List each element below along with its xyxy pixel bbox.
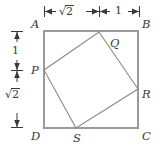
figure-canvas	[0, 0, 164, 149]
vertex-label-a: A	[31, 19, 39, 31]
arrow-top-mid-left	[92, 9, 99, 15]
arrow-top-mid-right	[100, 9, 107, 15]
vertex-label-q: Q	[110, 38, 119, 50]
vertex-label-r: R	[142, 89, 151, 101]
arrow-top-right-left	[132, 9, 139, 15]
arrow-top-left-right	[45, 9, 52, 15]
radical-sign-top: √2	[59, 5, 74, 17]
vertex-label-d: D	[31, 131, 40, 143]
dimension-label-top-one: 1	[115, 5, 122, 16]
vertex-label-p: P	[31, 65, 39, 77]
dimension-label-top-sqrt2-value: 2	[65, 5, 74, 17]
dimension-label-left-sqrt2: √2	[5, 88, 20, 100]
arrow-left-mid-down	[14, 71, 20, 78]
inner-square-pqrs	[44, 32, 138, 128]
outer-square-abcd	[44, 31, 138, 128]
vertex-label-s: S	[73, 133, 81, 145]
arrow-left-bottom-up	[14, 120, 20, 127]
radical-sign-left: √2	[5, 88, 20, 100]
vertex-label-c: C	[142, 131, 151, 143]
arrow-left-top-down	[14, 32, 20, 39]
dimension-label-left-one: 1	[12, 45, 19, 56]
arrow-left-mid-up	[14, 63, 20, 70]
vertex-label-b: B	[142, 19, 150, 31]
geometry-figure: √2 1 1 √2 A B C D P Q R S	[0, 0, 164, 149]
dimension-label-left-sqrt2-value: 2	[11, 88, 20, 100]
dimension-label-top-sqrt2: √2	[59, 5, 74, 17]
